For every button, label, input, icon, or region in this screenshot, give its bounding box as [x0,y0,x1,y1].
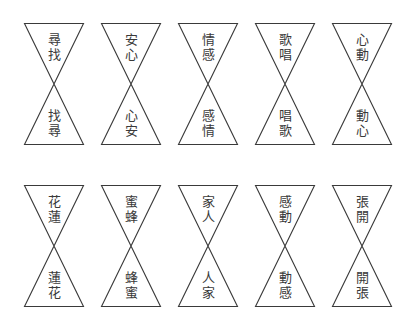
bottom-word: 蜂 蜜 [101,270,161,300]
top-word: 張 開 [332,194,392,224]
bottom-char-1: 蜂 [101,270,161,285]
top-char-2: 蜂 [101,209,161,224]
bottom-word: 動 心 [332,108,392,138]
bottom-char-2: 心 [332,123,392,138]
hourglass-word-pair-r1-c4: 歌 唱 唱 歌 [255,23,315,145]
top-word: 花 蓮 [24,194,84,224]
bottom-char-2: 蜜 [101,285,161,300]
top-char-1: 花 [24,194,84,209]
top-word: 家 人 [178,194,238,224]
top-char-1: 歌 [255,32,315,47]
bottom-char-1: 動 [255,270,315,285]
bottom-word: 動 感 [255,270,315,300]
top-char-1: 家 [178,194,238,209]
top-word: 歌 唱 [255,32,315,62]
hourglass-word-pair-r2-c2: 蜜 蜂 蜂 蜜 [101,185,161,307]
top-char-1: 感 [255,194,315,209]
bottom-char-2: 家 [178,285,238,300]
hourglass-word-pair-r1-c5: 心 動 動 心 [332,23,392,145]
hourglass-word-pair-r2-c3: 家 人 人 家 [178,185,238,307]
top-char-2: 動 [255,209,315,224]
top-char-2: 蓮 [24,209,84,224]
hourglass-word-pair-r2-c5: 張 開 開 張 [332,185,392,307]
hourglass-word-pair-r1-c1: 尋 找 找 尋 [24,23,84,145]
bottom-char-1: 開 [332,270,392,285]
bottom-char-1: 唱 [255,108,315,123]
top-word: 蜜 蜂 [101,194,161,224]
top-char-2: 唱 [255,47,315,62]
top-word: 感 動 [255,194,315,224]
bottom-char-1: 心 [101,108,161,123]
bottom-char-2: 歌 [255,123,315,138]
top-word: 尋 找 [24,32,84,62]
top-char-1: 尋 [24,32,84,47]
bottom-char-2: 張 [332,285,392,300]
top-word: 情 感 [178,32,238,62]
hourglass-word-pair-r2-c1: 花 蓮 蓮 花 [24,185,84,307]
top-char-2: 感 [178,47,238,62]
bottom-word: 開 張 [332,270,392,300]
top-char-1: 情 [178,32,238,47]
bottom-char-2: 感 [255,285,315,300]
top-char-1: 蜜 [101,194,161,209]
hourglass-word-pair-r1-c3: 情 感 感 情 [178,23,238,145]
bottom-word: 找 尋 [24,108,84,138]
bottom-char-2: 尋 [24,123,84,138]
top-word: 心 動 [332,32,392,62]
top-char-1: 心 [332,32,392,47]
bottom-char-1: 動 [332,108,392,123]
hourglass-word-pair-r1-c2: 安 心 心 安 [101,23,161,145]
bottom-char-2: 情 [178,123,238,138]
top-char-2: 找 [24,47,84,62]
bottom-word: 心 安 [101,108,161,138]
top-char-2: 開 [332,209,392,224]
bottom-char-2: 安 [101,123,161,138]
bottom-word: 感 情 [178,108,238,138]
bottom-char-1: 人 [178,270,238,285]
bottom-char-1: 蓮 [24,270,84,285]
bottom-word: 人 家 [178,270,238,300]
bottom-char-1: 感 [178,108,238,123]
bottom-char-2: 花 [24,285,84,300]
bottom-char-1: 找 [24,108,84,123]
bottom-word: 蓮 花 [24,270,84,300]
top-char-1: 安 [101,32,161,47]
top-char-2: 人 [178,209,238,224]
top-char-1: 張 [332,194,392,209]
bottom-word: 唱 歌 [255,108,315,138]
top-char-2: 動 [332,47,392,62]
top-char-2: 心 [101,47,161,62]
hourglass-word-pair-r2-c4: 感 動 動 感 [255,185,315,307]
top-word: 安 心 [101,32,161,62]
